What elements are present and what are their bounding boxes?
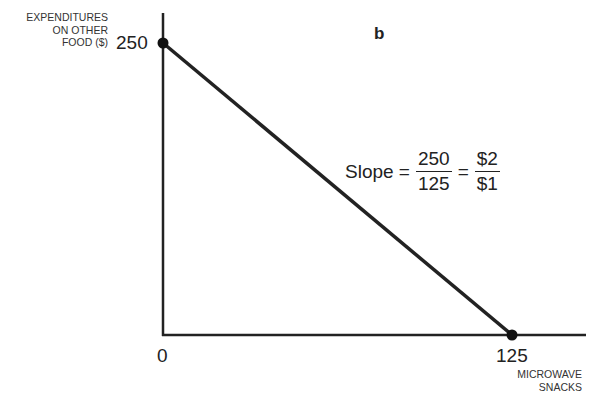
y-tick-250: 250 (116, 32, 148, 54)
fraction-numerator: $2 (475, 148, 500, 172)
fraction-denominator: 125 (418, 172, 450, 195)
chart-canvas (0, 0, 590, 400)
point-y-intercept (158, 38, 169, 49)
fraction-numerator: 250 (416, 148, 452, 172)
x-tick-125: 125 (496, 345, 528, 367)
y-axis-label-line: EXPENDITURES (0, 11, 108, 24)
equals-sign: = (458, 161, 469, 183)
point-x-intercept (507, 330, 518, 341)
y-axis-label: EXPENDITURES ON OTHER FOOD ($) (0, 11, 108, 49)
x-axis-label-line: MICROWAVE (517, 368, 582, 381)
slope-annotation: Slope = 250 125 = $2 $1 (345, 148, 506, 195)
fraction-denominator: $1 (477, 172, 498, 195)
panel-label: b (374, 24, 384, 44)
x-axis-label-line: SNACKS (517, 381, 582, 394)
slope-prefix: Slope = (345, 161, 410, 183)
x-axis-label: MICROWAVE SNACKS (517, 368, 582, 393)
fraction-quantity: 250 125 (416, 148, 452, 195)
y-axis-label-line: ON OTHER (0, 24, 108, 37)
x-tick-0: 0 (157, 345, 168, 367)
fraction-price: $2 $1 (475, 148, 500, 195)
y-axis-label-line: FOOD ($) (0, 36, 108, 49)
